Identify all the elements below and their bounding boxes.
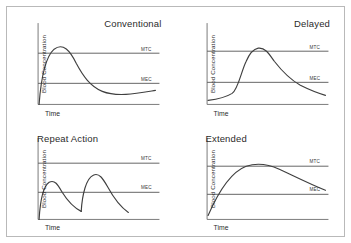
x-axis-label: Time <box>45 224 60 231</box>
panel-conventional: Conventional Blood Concentration Time MT… <box>7 7 176 122</box>
panel-repeat-action: Repeat Action Blood Concentration Time M… <box>7 122 176 237</box>
mtc-label: MTC <box>310 159 321 164</box>
mtc-label: MTC <box>310 45 321 50</box>
y-axis-label: Blood Concentration <box>40 35 47 93</box>
mtc-label: MTC <box>141 156 152 161</box>
mec-label: MEC <box>141 185 152 190</box>
panel-delayed: Delayed Blood Concentration Time MTC MEC <box>176 7 345 122</box>
chart-extended <box>176 122 345 237</box>
x-axis-label: Time <box>214 110 229 117</box>
x-axis-label: Time <box>45 110 60 117</box>
dose-2-curve <box>81 174 128 212</box>
figure-root: Conventional Blood Concentration Time MT… <box>0 0 351 243</box>
panel-title-conventional: Conventional <box>104 18 161 29</box>
y-axis-label: Blood Concentration <box>40 150 47 208</box>
concentration-curve <box>208 48 325 100</box>
y-axis-label: Blood Concentration <box>209 35 216 93</box>
mec-label: MEC <box>310 187 321 192</box>
panel-extended: Extended Blood Concentration Time MTC ME… <box>176 122 345 237</box>
mec-label: MEC <box>141 77 152 82</box>
y-axis-label: Blood Concentration <box>209 150 216 208</box>
panel-title-extended: Extended <box>206 133 247 144</box>
panel-grid: Conventional Blood Concentration Time MT… <box>7 7 344 236</box>
panel-title-delayed: Delayed <box>294 18 330 29</box>
concentration-curve <box>39 47 155 105</box>
mec-label: MEC <box>310 76 321 81</box>
mtc-label: MTC <box>141 47 152 52</box>
panel-title-repeat-action: Repeat Action <box>37 133 98 144</box>
x-axis-label: Time <box>214 224 229 231</box>
concentration-curve <box>208 164 325 215</box>
